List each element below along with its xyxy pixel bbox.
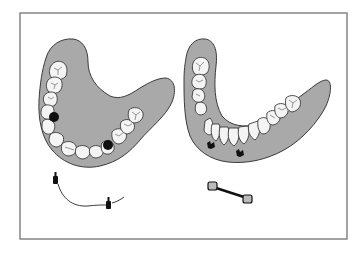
lower-gum-base [184, 39, 331, 163]
attachment-socket-left [49, 112, 59, 122]
ball-implant-set [53, 172, 124, 209]
connector-line [58, 184, 106, 206]
bar-abutment-right [243, 195, 252, 203]
lower-denture [184, 39, 331, 203]
connector-line-tail [112, 197, 124, 203]
upper-denture [39, 39, 175, 209]
implant-left-ball [55, 172, 57, 176]
dental-diagram [0, 0, 364, 255]
implant-left [53, 176, 58, 184]
attachment-socket-right [103, 140, 113, 150]
implant-right-ball [108, 197, 110, 201]
bar-attachment [208, 182, 252, 203]
implant-right [106, 201, 111, 209]
connecting-bar [213, 187, 247, 198]
bar-abutment-left [208, 182, 217, 190]
